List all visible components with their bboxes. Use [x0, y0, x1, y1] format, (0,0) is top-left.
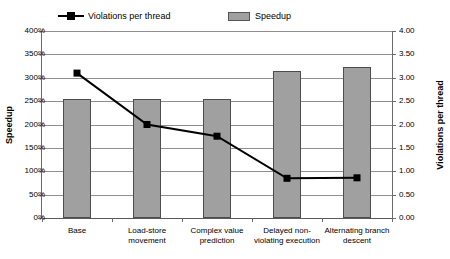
line-marker-violations-1	[144, 121, 151, 128]
x-axis-category-label-4: Alternating branch descent	[322, 226, 392, 246]
y-axis-left-tick-label: 150%	[0, 144, 45, 152]
legend-label-violations-per-thread: Violations per thread	[88, 11, 170, 21]
gridline	[42, 218, 392, 219]
legend-item-speedup: Speedup	[228, 6, 291, 26]
y-axis-left-tick-label: 200%	[0, 121, 45, 129]
x-axis-tick	[182, 218, 183, 222]
y-axis-right-tick-label: 1.50	[399, 144, 450, 152]
plot-area: 0%0.0050%0.50100%1.00150%1.50200%2.00250…	[41, 31, 393, 218]
y-axis-left-tick-label: 350%	[0, 50, 45, 58]
line-path-violations	[77, 73, 357, 178]
x-axis-tick	[392, 218, 393, 222]
line-marker-violations-2	[214, 133, 221, 140]
y-axis-right-tick-label: 1.00	[399, 167, 450, 175]
y-axis-left-tick-label: 50%	[0, 191, 45, 199]
y-axis-right-tick-label: 0.50	[399, 191, 450, 199]
y-axis-right-tick-label: 0.00	[399, 214, 450, 222]
y-axis-right-tick-label: 3.50	[399, 50, 450, 58]
line-marker-violations-4	[354, 174, 361, 181]
y-axis-left-tick-label: 300%	[0, 74, 45, 82]
y-axis-right-tick-label: 3.00	[399, 74, 450, 82]
y-axis-right-tick	[392, 148, 396, 149]
y-axis-right-tick-label: 2.50	[399, 97, 450, 105]
y-axis-right-tick	[392, 101, 396, 102]
x-axis-category-label-1: Load-store movement	[112, 226, 182, 246]
x-axis-tick	[322, 218, 323, 222]
legend-label-speedup: Speedup	[255, 11, 291, 21]
x-axis-category-label-3: Delayed non-violating execution	[252, 226, 322, 246]
x-axis-tick	[112, 218, 113, 222]
line-marker-swatch-icon	[58, 11, 84, 21]
y-axis-right-tick	[392, 54, 396, 55]
y-axis-right-tick	[392, 195, 396, 196]
y-axis-right-tick-label: 4.00	[399, 27, 450, 35]
y-axis-left-tick-label: 100%	[0, 167, 45, 175]
y-axis-right-tick-label: 2.00	[399, 121, 450, 129]
chart-legend: Violations per thread Speedup	[0, 6, 439, 26]
bar-swatch-icon	[228, 12, 250, 21]
y-axis-right-tick	[392, 125, 396, 126]
y-axis-right-tick	[392, 171, 396, 172]
x-axis-category-label-0: Base	[42, 226, 112, 236]
y-axis-right-tick	[392, 78, 396, 79]
x-axis-tick	[42, 218, 43, 222]
line-marker-violations-0	[74, 70, 81, 77]
y-axis-right-tick	[392, 31, 396, 32]
line-marker-violations-3	[284, 175, 291, 182]
legend-item-violations-per-thread: Violations per thread	[58, 6, 170, 26]
line-series-violations-per-thread	[42, 31, 392, 218]
y-axis-left-tick-label: 250%	[0, 97, 45, 105]
y-axis-left-tick-label: 0%	[0, 214, 45, 222]
x-axis-category-label-2: Complex value prediction	[182, 226, 252, 246]
y-axis-left-tick-label: 400%	[0, 27, 45, 35]
x-axis-tick	[252, 218, 253, 222]
